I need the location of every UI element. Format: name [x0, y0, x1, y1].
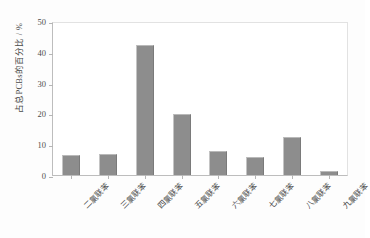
x-tick-label: 九氯联苯	[339, 180, 370, 211]
bar-slot	[310, 23, 347, 175]
bar-slot	[127, 23, 164, 175]
bar-slot	[163, 23, 200, 175]
bar-slot	[274, 23, 311, 175]
x-tick-mark	[182, 175, 183, 179]
bar[interactable]	[99, 154, 117, 175]
bar[interactable]	[62, 155, 80, 175]
bar[interactable]	[173, 114, 191, 175]
y-tick-mark	[49, 146, 53, 147]
y-tick-mark	[49, 23, 53, 24]
y-tick-label: 50	[24, 17, 46, 27]
x-tick-mark	[145, 175, 146, 179]
bar[interactable]	[136, 45, 154, 175]
y-tick-label: 10	[24, 140, 46, 150]
bar-slot	[200, 23, 237, 175]
y-tick-label: 30	[24, 79, 46, 89]
x-tick-label: 八氯联苯	[302, 180, 333, 211]
y-axis-label: 占总PCBs的百分比 / %	[12, 0, 24, 138]
bar-group	[53, 23, 347, 175]
y-tick-label: 0	[24, 171, 46, 181]
bar-slot	[90, 23, 127, 175]
y-tick-label: 20	[24, 109, 46, 119]
y-tick-mark	[49, 115, 53, 116]
x-tick-label: 二氯联苯	[80, 180, 111, 211]
y-tick-mark	[49, 177, 53, 178]
x-tick-mark	[292, 175, 293, 179]
x-tick-mark	[108, 175, 109, 179]
y-tick-mark	[49, 85, 53, 86]
plot-area	[52, 22, 348, 176]
x-tick-mark	[71, 175, 72, 179]
bar[interactable]	[246, 157, 264, 175]
bar-slot	[237, 23, 274, 175]
y-tick-mark	[49, 54, 53, 55]
x-tick-mark	[218, 175, 219, 179]
x-tick-label: 三氯联苯	[117, 180, 148, 211]
x-tick-label: 五氯联苯	[191, 180, 222, 211]
y-axis-tick-labels: 01020304050	[24, 22, 46, 176]
bar-slot	[53, 23, 90, 175]
x-tick-mark	[255, 175, 256, 179]
x-tick-mark	[329, 175, 330, 179]
x-tick-label: 四氯联苯	[154, 180, 185, 211]
bar[interactable]	[209, 151, 227, 175]
x-tick-label: 七氯联苯	[265, 180, 296, 211]
bar[interactable]	[283, 137, 301, 175]
x-tick-label: 六氯联苯	[228, 180, 259, 211]
y-tick-label: 40	[24, 48, 46, 58]
x-axis-tick-labels: 二氯联苯三氯联苯四氯联苯五氯联苯六氯联苯七氯联苯八氯联苯九氯联苯	[52, 180, 348, 236]
